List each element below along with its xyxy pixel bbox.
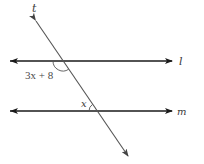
label-m: m: [177, 106, 186, 117]
angle-arc-m: [89, 104, 93, 111]
label-l: l: [179, 55, 183, 68]
label-t: t: [32, 2, 37, 15]
transversal-t: [29, 13, 128, 156]
angle-label-l: 3x + 8: [25, 69, 54, 81]
line-m: [10, 108, 172, 114]
angle-label-m: x: [81, 98, 87, 109]
line-l: [10, 58, 172, 64]
geometry-diagram: t l m 3x + 8 x: [0, 0, 204, 164]
